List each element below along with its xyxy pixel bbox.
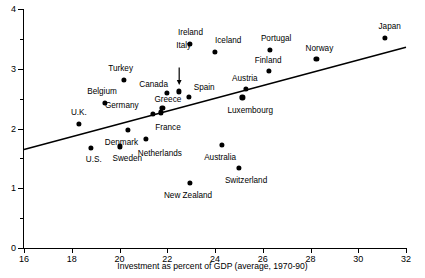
x-tick-26 — [263, 248, 264, 253]
y-minor-tick — [20, 158, 24, 159]
point-label-switzerland: Switzerland — [225, 177, 267, 186]
point-label-portugal: Portugal — [261, 35, 292, 44]
y-tick-2 — [18, 129, 24, 130]
point-label-denmark: Denmark — [105, 139, 138, 148]
point-label-spain: Spain — [194, 84, 215, 93]
point-label-turkey: Turkey — [108, 65, 133, 74]
point-label-france: France — [155, 124, 180, 133]
point-label-belgium: Belgium — [87, 88, 117, 97]
point-label-new-zealand: New Zealand — [164, 192, 212, 201]
y-minor-tick — [20, 39, 24, 40]
plot-inner: 01234161820222426283032U.K.U.S.BelgiumSw… — [24, 9, 406, 248]
point-label-netherlands: Netherlands — [138, 150, 182, 159]
y-minor-tick — [20, 99, 24, 100]
point-label-u-k: U.K. — [71, 109, 87, 118]
y-tick-label-0: 0 — [11, 244, 16, 253]
x-tick-22 — [167, 248, 168, 253]
x-tick-32 — [406, 248, 407, 253]
point-label-japan: Japan — [379, 23, 401, 32]
y-tick-label-1: 1 — [11, 184, 16, 193]
y-tick-1 — [18, 188, 24, 189]
y-tick-label-4: 4 — [11, 5, 16, 14]
x-tick-28 — [311, 248, 312, 253]
y-tick-label-2: 2 — [11, 124, 16, 133]
y-tick-label-3: 3 — [11, 64, 16, 73]
point-label-iceland: Iceland — [215, 37, 241, 46]
x-tick-20 — [120, 248, 121, 253]
x-tick-18 — [72, 248, 73, 253]
y-tick-4 — [18, 9, 24, 10]
point-label-luxembourg: Luxembourg — [227, 107, 273, 116]
y-tick-3 — [18, 69, 24, 70]
point-label-ireland: Ireland — [178, 29, 203, 38]
point-label-finland: Finland — [255, 57, 282, 66]
y-minor-tick — [20, 218, 24, 219]
x-axis-title: Investment as percent of GDP (average, 1… — [0, 262, 425, 271]
point-label-greece: Greece — [154, 96, 181, 105]
point-label-australia: Australia — [204, 154, 236, 163]
point-label-austria: Austria — [232, 75, 257, 84]
plot-area: 01234161820222426283032U.K.U.S.BelgiumSw… — [23, 9, 406, 249]
x-tick-16 — [24, 248, 25, 253]
scatter-chart: 01234161820222426283032U.K.U.S.BelgiumSw… — [0, 0, 425, 278]
point-label-u-s: U.S. — [86, 156, 102, 165]
x-tick-24 — [215, 248, 216, 253]
x-tick-30 — [358, 248, 359, 253]
point-label-norway: Norway — [305, 45, 333, 54]
point-label-canada: Canada — [139, 81, 168, 90]
point-label-germany: Germany — [105, 102, 139, 111]
